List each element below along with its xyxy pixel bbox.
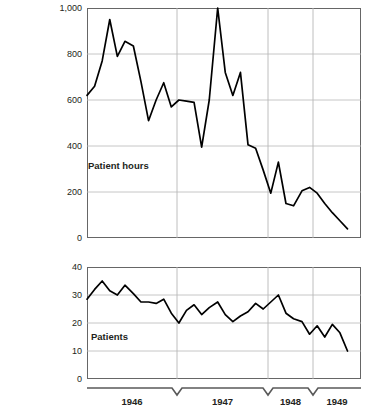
gridlines-horizontal (87, 54, 361, 192)
patients-line-chart (0, 258, 368, 386)
x-tick-label-1949: 1949 (313, 397, 361, 407)
patient-hours-line-chart (0, 0, 368, 246)
x-tick-label-1947: 1947 (177, 397, 268, 407)
x-tick-label-1948: 1948 (268, 397, 313, 407)
x-axis-shared: 1946 1947 1948 1949 (0, 378, 368, 411)
series-label-patients: Patients (91, 332, 128, 342)
x-tick-label-1946: 1946 (87, 397, 177, 407)
gridlines-horizontal (87, 295, 361, 351)
data-line-patient-hours (87, 8, 348, 229)
x-axis-bracket-line (87, 388, 361, 395)
series-label-patient-hours: Patient hours (88, 161, 149, 171)
panel-patient-hours: 1,000 800 600 400 200 0 Patien (0, 0, 368, 246)
panel-patients: 40 30 20 10 0 Patients (0, 258, 368, 386)
chart-figure: 1,000 800 600 400 200 0 Patien (0, 0, 368, 411)
